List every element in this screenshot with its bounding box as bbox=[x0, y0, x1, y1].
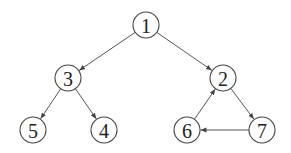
node-label: 5 bbox=[28, 120, 38, 142]
node-7: 7 bbox=[249, 117, 275, 143]
node-label: 2 bbox=[218, 68, 228, 90]
node-label: 4 bbox=[99, 120, 109, 142]
edge-2-to-7 bbox=[231, 88, 254, 119]
edge-3-to-5 bbox=[41, 89, 61, 119]
directed-graph-diagram: 1325467 bbox=[0, 0, 291, 153]
node-4: 4 bbox=[91, 117, 117, 143]
node-label: 7 bbox=[257, 120, 267, 142]
node-3: 3 bbox=[55, 65, 81, 91]
edge-1-to-3 bbox=[79, 32, 135, 70]
edge-1-to-2 bbox=[157, 32, 212, 70]
nodes-layer: 1325467 bbox=[20, 12, 275, 143]
node-2: 2 bbox=[210, 65, 236, 91]
node-6: 6 bbox=[174, 117, 200, 143]
node-1: 1 bbox=[133, 12, 159, 38]
node-label: 3 bbox=[63, 68, 73, 90]
node-5: 5 bbox=[20, 117, 46, 143]
node-label: 1 bbox=[141, 15, 151, 37]
node-label: 6 bbox=[182, 120, 192, 142]
edge-6-to-2 bbox=[194, 89, 215, 119]
edge-3-to-4 bbox=[75, 89, 96, 119]
